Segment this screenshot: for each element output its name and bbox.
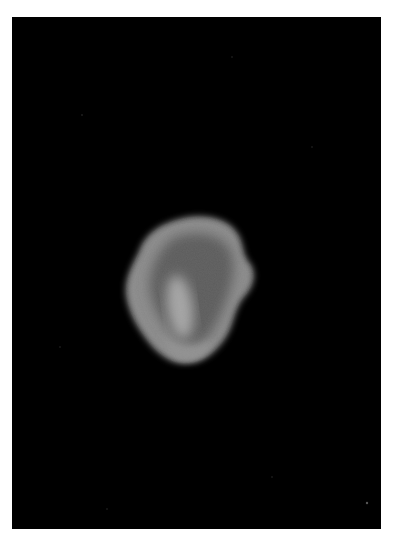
particle-graphic xyxy=(12,17,381,529)
micrograph-frame xyxy=(12,17,381,529)
